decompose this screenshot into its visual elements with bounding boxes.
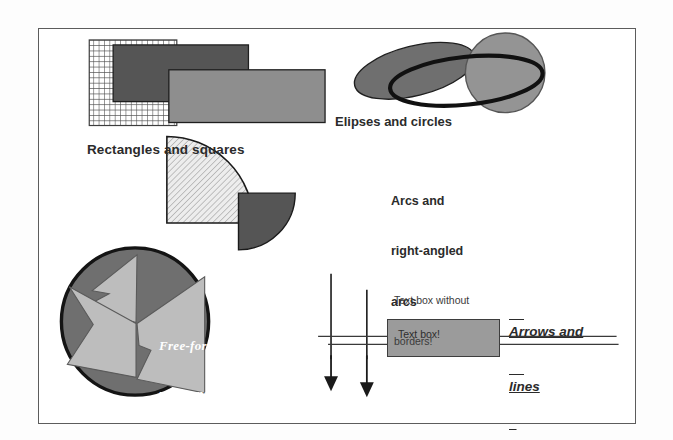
label-free-form-polygons: Free-form polygons	[159, 305, 217, 435]
label-polygons-line-1: Free-form	[159, 338, 217, 354]
tilted-filled-ellipse	[349, 32, 481, 110]
label-textbox-note: Text box without borders!	[394, 267, 469, 376]
label-polygons-line-2: polygons	[159, 386, 217, 402]
label-ellipses-and-circles: Elipses and circles	[335, 115, 452, 130]
dark-quarter-arc	[239, 193, 296, 250]
label-arcs-line-1: Arcs and	[391, 193, 463, 210]
label-textbox-note-line-2: borders!	[394, 335, 469, 349]
label-arrows-line-1: Arrows and	[509, 323, 583, 341]
slide-frame: Text box! Rectangles and squares Elipses…	[38, 28, 636, 424]
label-rectangles-and-squares: Rectangles and squares	[87, 142, 245, 158]
label-textbox-note-line-1: Text box without	[394, 294, 469, 308]
gray-circle	[465, 33, 545, 113]
label-arrows-and-lines: Arrows and lines	[509, 287, 583, 433]
medium-gray-rectangle	[169, 70, 325, 123]
label-arrows-line-2: lines	[509, 378, 583, 396]
ellipses-group	[349, 32, 545, 113]
rectangles-group	[89, 40, 325, 126]
label-arcs-line-2: right-angled	[391, 243, 463, 260]
